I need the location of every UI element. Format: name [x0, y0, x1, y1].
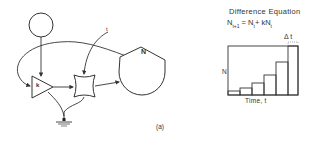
eq-plus: +	[255, 18, 259, 27]
bar-6	[288, 46, 298, 95]
difference-equation: Nt+1 = Nt+ kNt	[227, 19, 272, 29]
chart-x-label: Time, t	[245, 98, 267, 105]
bar-3	[252, 83, 264, 95]
storage-label: N	[141, 48, 146, 55]
equation-title: Difference Equation	[229, 8, 300, 16]
energy-source-icon	[29, 13, 53, 37]
chart-bars	[228, 46, 298, 95]
bar-5	[276, 62, 288, 95]
gate-to-storage-line	[95, 82, 119, 86]
bar-1	[228, 91, 240, 95]
chart-frame	[228, 46, 298, 95]
eq-equals: =	[242, 18, 246, 27]
time-input-label: t	[106, 26, 108, 32]
bar-4	[264, 75, 276, 95]
heat-sink-line-right	[64, 97, 84, 112]
heat-sink-line-left	[48, 92, 64, 116]
multiplier-label: k	[36, 82, 39, 88]
bar-2	[240, 88, 252, 95]
delta-t-label: Δ t	[284, 33, 292, 40]
time-input-line	[84, 32, 108, 74]
work-gate-icon	[74, 75, 95, 97]
eq-lhs-sub: t+1	[232, 23, 239, 29]
delta-t-bracket	[288, 42, 298, 44]
eq-rhs2-sub: t	[271, 23, 272, 29]
heat-sink-ground-icon	[56, 112, 72, 126]
figure-caption: (a)	[156, 124, 164, 131]
chart-y-label: N	[222, 69, 227, 76]
